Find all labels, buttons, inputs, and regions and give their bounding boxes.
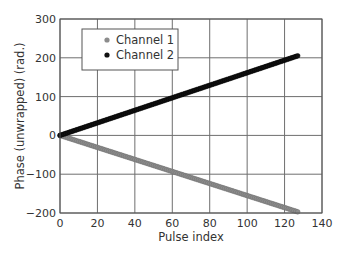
y-axis-label: Phase (unwrapped) (rad.) [13,42,27,189]
x-tick-label: 20 [90,217,104,230]
y-tick-label: −200 [26,207,56,220]
legend-label-channel-2: Channel 2 [116,48,174,62]
x-tick-label: 100 [237,217,258,230]
x-tick-label: 40 [128,217,142,230]
series-channel-1 [58,133,300,214]
x-tick-label: 80 [203,217,217,230]
y-tick-label: −100 [26,168,56,181]
legend-label-channel-1: Channel 1 [116,33,174,47]
x-tick-label: 120 [274,217,295,230]
x-axis-ticks: 020406080100120140 [57,217,333,230]
y-tick-label: 300 [35,13,56,26]
y-tick-label: 0 [49,129,56,142]
legend: Channel 1 Channel 2 [82,29,178,70]
phase-chart: 020406080100120140 −200−1000100200300 Pu… [0,0,346,254]
x-tick-label: 0 [57,217,64,230]
x-tick-label: 60 [165,217,179,230]
y-axis-ticks: −200−1000100200300 [26,13,56,220]
y-tick-label: 200 [35,52,56,65]
x-tick-label: 140 [312,217,333,230]
x-axis-label: Pulse index [158,230,224,244]
data-series [58,53,300,214]
legend-marker-channel-2 [104,52,109,57]
y-tick-label: 100 [35,91,56,104]
legend-marker-channel-1 [104,37,109,42]
